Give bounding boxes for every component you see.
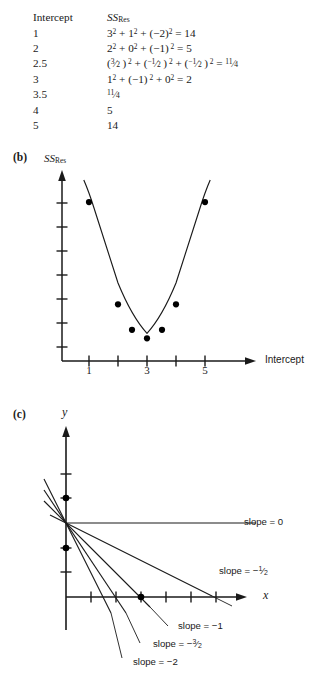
- cell-intercept: 4: [33, 103, 107, 118]
- slope-fraction: 3⁄2: [192, 638, 201, 649]
- panel-b-data-points: [86, 199, 208, 341]
- column-header-intercept: Intercept: [33, 10, 107, 26]
- panel-b-x-axis-label: Intercept: [265, 354, 304, 365]
- slope-label-minus-one: slope = −1: [178, 620, 223, 631]
- cell-ss-res: (3⁄2) 2 + (−1⁄2) 2 + (−1⁄2) 2 = 11⁄4: [107, 56, 333, 72]
- ss-main: SS: [107, 11, 118, 23]
- panel-b-y-axis: [57, 170, 68, 361]
- panel-c-x-axis: [66, 592, 247, 603]
- cell-intercept: 3: [33, 72, 107, 87]
- table-header-row: Intercept SSRes: [33, 10, 333, 26]
- panel-b-xtick-3: 3: [140, 364, 154, 376]
- panel-label-b: (b): [13, 151, 27, 163]
- cell-ss-res: 5: [107, 103, 333, 118]
- panel-b-xtick-1: 1: [82, 364, 96, 376]
- panel-b-y-axis-label: SSRes: [44, 152, 66, 165]
- cell-ss-res: 14: [107, 118, 333, 133]
- panel-b-xtick-5: 5: [198, 364, 212, 376]
- slope-fraction: 1⁄2: [258, 565, 267, 576]
- table-row: 4 5: [33, 103, 333, 118]
- slope-label-minus-two: slope = −2: [133, 656, 178, 667]
- table-row: 2 22 + 02 + (−1) 2 = 5: [33, 41, 333, 56]
- cell-ss-res: 22 + 02 + (−1) 2 = 5: [107, 41, 333, 56]
- slope-label-minus-three-halves: slope = −3⁄2: [153, 638, 202, 649]
- slope-label-0: slope = 0: [244, 516, 283, 527]
- table-row: 3 12 + (−1) 2 + 02 = 2: [33, 72, 333, 87]
- cell-intercept: 2: [33, 41, 107, 56]
- cell-ss-res: 32 + 12 + (−2)2 = 14: [107, 26, 333, 41]
- column-header-ss-res: SSRes: [107, 10, 333, 26]
- panel-c-data-points: [63, 495, 145, 601]
- cell-ss-res: 11⁄4: [107, 87, 333, 103]
- cell-intercept: 5: [33, 118, 107, 133]
- panel-label-c: (c): [13, 408, 26, 420]
- residual-sum-of-squares-table: Intercept SSRes 1 32 + 12 + (−2)2 = 14 2…: [33, 10, 333, 133]
- figure-page: Intercept SSRes 1 32 + 12 + (−2)2 = 14 2…: [0, 0, 334, 691]
- panel-c-y-axis-label: y: [62, 405, 67, 420]
- cell-ss-res: 12 + (−1) 2 + 02 = 2: [107, 72, 333, 87]
- panel-b-curve: [84, 180, 210, 333]
- panel-c-slope-lines: [44, 479, 256, 613]
- cell-intercept: 3.5: [33, 87, 107, 103]
- ss-sub: Res: [118, 15, 130, 24]
- y-axis-ss-main: SS: [44, 152, 55, 164]
- slope-label-minus-three-halves-text: slope = −: [153, 638, 192, 649]
- y-axis-ss-sub: Res: [55, 156, 66, 165]
- panel-c-chart: [0, 420, 334, 690]
- table: Intercept SSRes 1 32 + 12 + (−2)2 = 14 2…: [33, 10, 333, 133]
- panel-c-x-axis-label: x: [263, 588, 268, 603]
- table-row: 3.5 11⁄4: [33, 87, 333, 103]
- table-row: 2.5 (3⁄2) 2 + (−1⁄2) 2 + (−1⁄2) 2 = 11⁄4: [33, 56, 333, 72]
- cell-intercept: 2.5: [33, 56, 107, 72]
- slope-label-minus-half-text: slope = −: [219, 565, 258, 576]
- cell-intercept: 1: [33, 26, 107, 41]
- slope-label-minus-half: slope = −1⁄2: [219, 565, 268, 576]
- table-row: 1 32 + 12 + (−2)2 = 14: [33, 26, 333, 41]
- table-row: 5 14: [33, 118, 333, 133]
